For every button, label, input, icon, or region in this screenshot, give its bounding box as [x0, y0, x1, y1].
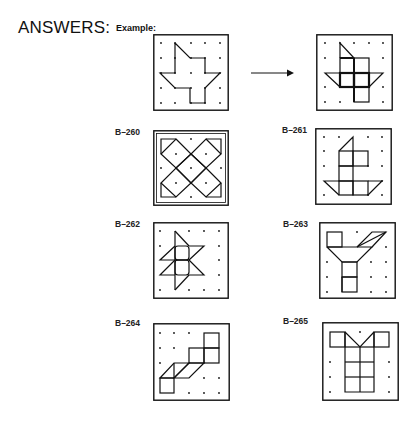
- problem-label-b264: B–264: [115, 318, 140, 328]
- right-arrow-icon: [250, 65, 296, 83]
- b262-grid: [153, 222, 229, 299]
- b261-grid: [315, 128, 392, 205]
- b264-grid: [153, 323, 230, 401]
- b260-grid: [153, 130, 229, 206]
- problem-label-b261: B–261: [282, 125, 307, 135]
- example-before-grid: [153, 34, 229, 111]
- example-after-grid: [316, 34, 393, 111]
- problem-label-b260: B–260: [115, 127, 140, 137]
- answers-heading: ANSWERS:: [18, 18, 110, 38]
- problem-label-b262: B–262: [115, 219, 140, 229]
- problem-label-b263: B–263: [283, 219, 308, 229]
- b265-grid: [322, 322, 399, 401]
- b263-grid: [319, 222, 396, 299]
- example-label: Example:: [116, 23, 156, 33]
- problem-label-b265: B–265: [283, 316, 308, 326]
